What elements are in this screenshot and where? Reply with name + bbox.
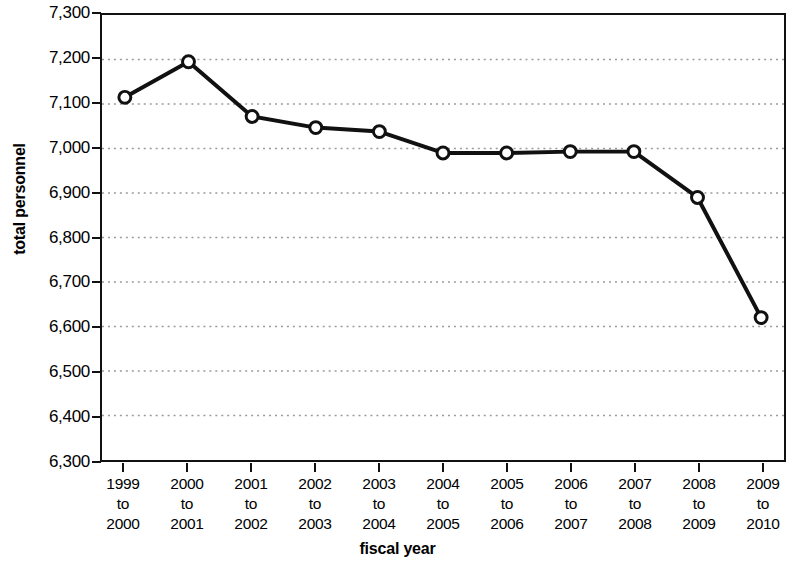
x-axis-tick-mark bbox=[442, 463, 444, 472]
x-axis-tick-mark bbox=[698, 463, 700, 472]
line-chart: total personnel 7,3007,2007,1007,0006,90… bbox=[0, 0, 795, 574]
x-axis-tick-mark bbox=[762, 463, 764, 472]
data-point-marker bbox=[310, 122, 322, 134]
y-axis-tick-label: 6,600 bbox=[24, 318, 90, 335]
data-point-marker bbox=[437, 147, 449, 159]
y-axis-tick-label: 6,900 bbox=[24, 184, 90, 201]
y-axis-tick-label: 7,300 bbox=[24, 4, 90, 21]
plot-area bbox=[100, 13, 786, 462]
x-axis-tick-mark bbox=[378, 463, 380, 472]
x-axis-tick-label-line: to bbox=[723, 494, 795, 514]
data-series-markers bbox=[119, 56, 767, 324]
data-point-marker bbox=[373, 126, 385, 138]
data-point-marker bbox=[755, 312, 767, 324]
x-axis-tick-mark bbox=[634, 463, 636, 472]
x-axis-tick-mark bbox=[186, 463, 188, 472]
data-point-marker bbox=[246, 111, 258, 123]
y-axis-tick-label: 6,700 bbox=[24, 273, 90, 290]
x-axis-title: fiscal year bbox=[0, 540, 795, 558]
y-axis-tick-label: 6,500 bbox=[24, 363, 90, 380]
data-series-line bbox=[125, 62, 761, 318]
x-axis-tick-label-line: 2009 bbox=[723, 474, 795, 494]
plot-canvas bbox=[102, 15, 784, 460]
data-point-marker bbox=[183, 56, 195, 68]
data-point-marker bbox=[564, 146, 576, 158]
x-axis-tick-mark bbox=[506, 463, 508, 472]
x-axis-tick-mark bbox=[250, 463, 252, 472]
y-axis-tick-label: 7,100 bbox=[24, 94, 90, 111]
x-axis-tick-mark bbox=[122, 463, 124, 472]
x-axis-tick-label-line: 2010 bbox=[723, 514, 795, 534]
y-axis-tick-label: 6,300 bbox=[24, 453, 90, 470]
gridlines bbox=[102, 60, 784, 416]
y-axis-tick-label: 7,200 bbox=[24, 49, 90, 66]
data-point-marker bbox=[119, 91, 131, 103]
x-axis-tick-mark bbox=[314, 463, 316, 472]
x-axis-tick-label: 2009to2010 bbox=[723, 474, 795, 534]
y-axis-tick-label: 6,400 bbox=[24, 408, 90, 425]
y-axis-tick-label: 7,000 bbox=[24, 139, 90, 156]
x-axis-tick-mark bbox=[570, 463, 572, 472]
x-axis-tick-labels: 1999to20002000to20012001to20022002to2003… bbox=[0, 474, 795, 544]
data-point-marker bbox=[692, 192, 704, 204]
y-axis-tick-label: 6,800 bbox=[24, 229, 90, 246]
data-point-marker bbox=[501, 147, 513, 159]
data-point-marker bbox=[628, 146, 640, 158]
